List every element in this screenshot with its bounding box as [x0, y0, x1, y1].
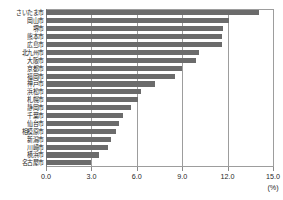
category-label-row: 仙台市: [0, 119, 45, 127]
bar-row: [46, 119, 273, 127]
bar-大阪市: [46, 58, 196, 63]
bar-row: [46, 104, 273, 112]
x-tick-0.0: [46, 167, 47, 171]
bar-series: [46, 9, 273, 167]
bar-名古屋市: [46, 160, 91, 165]
category-label: 熊本市: [27, 33, 44, 40]
category-label-row: 熊本市: [0, 33, 45, 41]
bar-岡山市: [46, 18, 229, 23]
bar-浜松市: [46, 89, 141, 94]
x-axis-tick-labels: 0.03.06.09.012.015.0: [0, 172, 283, 184]
category-label-row: 京都市: [0, 64, 45, 72]
bar-row: [46, 72, 273, 80]
bar-chart: さいたま市岡山市堺市熊本市広島市北九州市大阪市京都市福岡市神戸市浜松市札幌市静岡…: [0, 0, 283, 200]
category-label-row: 千葉市: [0, 112, 45, 120]
x-tick-3.0: [91, 167, 92, 171]
bar-静岡市: [46, 105, 131, 110]
bar-row: [46, 33, 273, 41]
category-label-row: 広島市: [0, 41, 45, 49]
bar-川崎市: [46, 145, 108, 150]
bar-横浜市: [46, 152, 99, 157]
category-label: 名古屋市: [22, 159, 44, 166]
bar-row: [46, 25, 273, 33]
category-label: 横浜市: [27, 151, 44, 158]
bar-row: [46, 80, 273, 88]
chart-title: [96, 0, 246, 2]
bar-広島市: [46, 42, 222, 47]
x-tick-label-0.0: 0.0: [41, 172, 51, 181]
bar-row: [46, 151, 273, 159]
bar-さいたま市: [46, 10, 259, 15]
bar-新潟市: [46, 137, 111, 142]
bar-北九州市: [46, 50, 199, 55]
category-label: 岡山市: [27, 17, 44, 24]
x-tick-label-6.0: 6.0: [132, 172, 142, 181]
bar-row: [46, 88, 273, 96]
category-label-row: 浜松市: [0, 88, 45, 96]
category-label-row: 岡山市: [0, 17, 45, 25]
category-label: 神戸市: [27, 80, 44, 87]
x-tick-label-12.0: 12.0: [221, 172, 235, 181]
category-label: さいたま市: [16, 9, 44, 16]
bar-row: [46, 135, 273, 143]
x-tick-label-15.0: 15.0: [266, 172, 280, 181]
category-label-row: 北九州市: [0, 48, 45, 56]
bar-row: [46, 17, 273, 25]
bar-row: [46, 41, 273, 49]
category-label: 京都市: [27, 65, 44, 72]
category-label: 静岡市: [27, 104, 44, 111]
category-label-row: 横浜市: [0, 151, 45, 159]
x-tick-label-3.0: 3.0: [86, 172, 96, 181]
bar-京都市: [46, 66, 182, 71]
bar-row: [46, 96, 273, 104]
bar-千葉市: [46, 113, 123, 118]
category-label-row: 川崎市: [0, 143, 45, 151]
bar-熊本市: [46, 34, 222, 39]
bar-row: [46, 48, 273, 56]
bar-仙台市: [46, 121, 119, 126]
category-label: 堺市: [33, 25, 44, 32]
category-label: 北九州市: [22, 49, 44, 56]
category-label: 札幌市: [27, 96, 44, 103]
bar-row: [46, 112, 273, 120]
category-label: 千葉市: [27, 112, 44, 119]
category-label-row: 名古屋市: [0, 159, 45, 167]
category-label: 川崎市: [27, 144, 44, 151]
x-axis-unit-label: (%): [267, 183, 278, 192]
category-label: 大阪市: [27, 57, 44, 64]
bar-神戸市: [46, 81, 155, 86]
category-label: 福岡市: [27, 73, 44, 80]
plot-area: [46, 9, 273, 167]
bar-row: [46, 56, 273, 64]
category-label: 相模原市: [22, 128, 44, 135]
category-label-row: 静岡市: [0, 104, 45, 112]
gridline-15.0: [273, 9, 274, 167]
category-label-row: 堺市: [0, 25, 45, 33]
x-tick-12.0: [228, 167, 229, 171]
category-label: 広島市: [27, 41, 44, 48]
category-label-row: 神戸市: [0, 80, 45, 88]
category-label-row: 札幌市: [0, 96, 45, 104]
category-label: 新潟市: [27, 136, 44, 143]
x-tick-9.0: [182, 167, 183, 171]
x-tick-label-9.0: 9.0: [177, 172, 187, 181]
bar-row: [46, 9, 273, 17]
category-label-row: さいたま市: [0, 9, 45, 17]
bar-row: [46, 159, 273, 167]
bar-堺市: [46, 26, 223, 31]
category-label: 仙台市: [27, 120, 44, 127]
x-tick-6.0: [137, 167, 138, 171]
x-tick-15.0: [273, 167, 274, 171]
bar-福岡市: [46, 74, 175, 79]
bar-相模原市: [46, 129, 116, 134]
bar-札幌市: [46, 97, 138, 102]
category-label-row: 新潟市: [0, 135, 45, 143]
bar-row: [46, 64, 273, 72]
category-label-row: 相模原市: [0, 127, 45, 135]
category-label-row: 福岡市: [0, 72, 45, 80]
bar-row: [46, 127, 273, 135]
y-axis-category-labels: さいたま市岡山市堺市熊本市広島市北九州市大阪市京都市福岡市神戸市浜松市札幌市静岡…: [0, 9, 45, 167]
category-label-row: 大阪市: [0, 56, 45, 64]
bar-row: [46, 143, 273, 151]
category-label: 浜松市: [27, 88, 44, 95]
